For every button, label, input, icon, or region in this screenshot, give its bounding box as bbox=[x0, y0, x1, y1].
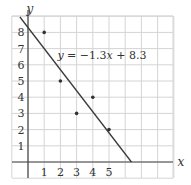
data-point bbox=[107, 128, 111, 132]
y-tick-label: 5 bbox=[18, 75, 25, 88]
y-tick-label: 2 bbox=[18, 124, 25, 137]
x-tick-label: 2 bbox=[57, 166, 64, 179]
x-tick-label: 3 bbox=[73, 166, 80, 179]
equation-annotation: y = −1.3x + 8.3 bbox=[56, 49, 146, 62]
x-tick-label: 1 bbox=[41, 166, 48, 179]
y-tick-label: 6 bbox=[18, 59, 25, 72]
data-point bbox=[91, 95, 95, 99]
x-tick-label: 5 bbox=[106, 166, 113, 179]
y-tick-label: 3 bbox=[18, 107, 25, 120]
y-tick-label: 8 bbox=[18, 26, 25, 39]
data-point bbox=[42, 31, 46, 35]
chart-canvas: 1234512345678 y x y = −1.3x + 8.3 bbox=[0, 0, 191, 185]
x-axis-label: x bbox=[178, 155, 185, 169]
axis-labels: y x bbox=[26, 2, 185, 169]
x-tick-label: 4 bbox=[89, 166, 96, 179]
y-tick-label: 1 bbox=[18, 140, 25, 153]
data-point bbox=[59, 79, 63, 83]
data-point bbox=[75, 112, 79, 116]
y-axis-label: y bbox=[26, 2, 34, 16]
y-tick-label: 7 bbox=[18, 43, 25, 56]
y-tick-label: 4 bbox=[18, 91, 25, 104]
regression-line bbox=[20, 17, 132, 162]
